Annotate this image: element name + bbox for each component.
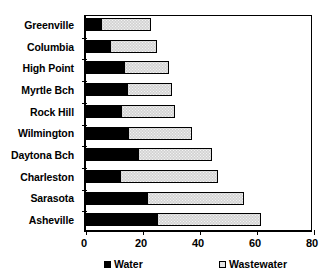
bar-segment-water [84,83,127,96]
y-axis-tick-label: Wilmington [0,128,74,139]
bar-segment-water [84,170,120,183]
bar-segment-water [84,127,128,140]
bar-row [84,124,312,146]
bar-segment-wastewater [157,213,261,226]
y-axis-tick-label: Daytona Bch [0,150,74,161]
bar-rows [84,15,312,232]
chart-legend: Water Wastewater [84,258,312,272]
y-axis-tick-label: Charleston [0,172,74,183]
x-axis-tick-label: 40 [192,237,204,249]
stacked-bar [84,105,175,118]
bar-segment-wastewater [124,61,170,74]
bar-segment-wastewater [121,105,175,118]
x-axis-tick-label: 60 [249,237,261,249]
stacked-bar [84,83,172,96]
y-axis-tick-label: High Point [0,63,74,74]
stacked-bar [84,148,212,161]
bar-row [84,80,312,102]
legend-label-wastewater: Wastewater [229,258,287,270]
x-axis-tick-label: 80 [306,237,318,249]
y-axis-tick-label: Rock Hill [0,107,74,118]
bar-row [84,167,312,189]
x-axis-tick [314,230,315,235]
bar-row [84,210,312,232]
bar-segment-water [84,18,101,31]
legend-item-wastewater: Wastewater [219,258,287,270]
bar-row [84,58,312,80]
legend-swatch-water-icon [104,261,111,268]
bar-segment-water [84,148,138,161]
bar-segment-wastewater [120,170,218,183]
stacked-bar [84,213,261,226]
bar-segment-wastewater [127,83,173,96]
bar-segment-water [84,105,121,118]
legend-label-water: Water [114,258,143,270]
bar-segment-wastewater [138,148,212,161]
y-axis-tick-label: Myrtle Bch [0,85,74,96]
stacked-bar [84,170,218,183]
stacked-bar [84,18,151,31]
y-axis-tick-label: Greenville [0,20,74,31]
bar-segment-wastewater [110,40,157,53]
y-axis-labels: GreenvilleColumbiaHigh PointMyrtle BchRo… [0,15,80,232]
bar-row [84,145,312,167]
stacked-bar [84,61,169,74]
stacked-bar [84,40,157,53]
bar-segment-water [84,192,147,205]
stacked-bar-chart: GreenvilleColumbiaHigh PointMyrtle BchRo… [0,0,325,277]
stacked-bar [84,192,244,205]
legend-swatch-wastewater-icon [219,261,226,268]
y-axis-tick-label: Sarasota [0,193,74,204]
stacked-bar [84,127,192,140]
legend-item-water: Water [104,258,143,270]
x-axis-tick-label: 20 [135,237,147,249]
bar-row [84,102,312,124]
bar-segment-wastewater [147,192,244,205]
bar-segment-water [84,213,157,226]
y-axis-tick-label: Columbia [0,42,74,53]
bar-segment-water [84,40,110,53]
bar-row [84,37,312,59]
bar-segment-water [84,61,124,74]
bar-segment-wastewater [128,127,192,140]
y-axis-tick-label: Asheville [0,215,74,226]
bar-segment-wastewater [101,18,151,31]
bar-row [84,189,312,211]
bar-row [84,15,312,37]
x-axis-tick-label: 0 [81,237,87,249]
x-axis-labels: 020406080 [84,237,324,251]
